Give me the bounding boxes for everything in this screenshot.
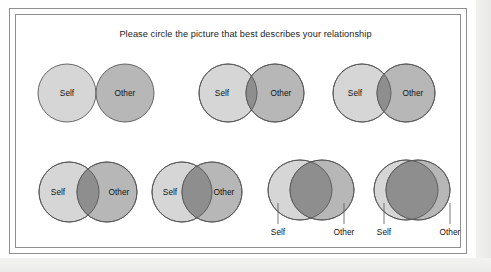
other-label-5: Other [214,187,235,197]
self-label-7: Self [377,227,392,237]
other-label-4: Other [109,187,130,197]
venn-diagram-layer: SelfOtherSelfOtherSelfOtherSelfOtherSelf… [0,0,491,272]
ios-item-5[interactable]: SelfOther [152,162,242,222]
self-label-2: Self [215,88,230,98]
self-label-1: Self [60,88,75,98]
ios-item-1[interactable]: SelfOther [38,64,154,122]
ios-item-7[interactable]: SelfOther [374,160,461,237]
ios-item-4[interactable]: SelfOther [39,162,137,222]
ios-scale-items: SelfOtherSelfOtherSelfOtherSelfOtherSelf… [0,0,491,272]
other-label-2: Other [271,88,292,98]
self-label-3: Self [348,88,363,98]
self-label-6: Self [271,227,286,237]
ios-item-6[interactable]: SelfOther [268,160,355,237]
ios-item-2[interactable]: SelfOther [199,64,304,122]
other-label-3: Other [403,88,424,98]
ios-item-3[interactable]: SelfOther [333,64,435,122]
self-label-5: Self [163,187,178,197]
other-label-6: Other [334,227,355,237]
other-label-1: Other [115,88,136,98]
scanned-page: Please circle the picture that best desc… [0,0,491,272]
self-label-4: Self [51,187,66,197]
other-label-7: Other [440,227,461,237]
